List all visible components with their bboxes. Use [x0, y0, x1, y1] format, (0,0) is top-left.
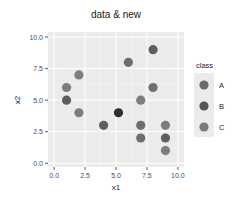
legend-title: class [196, 61, 213, 70]
data-point [114, 108, 123, 117]
data-point [74, 70, 83, 79]
y-tick-label: 2.5 [33, 128, 43, 135]
y-tick-label: 0.0 [33, 160, 43, 167]
chart-title: data & new [91, 9, 142, 20]
legend-key-a [199, 80, 208, 89]
data-point [74, 108, 83, 117]
data-point [124, 58, 133, 67]
y-tick-label: 7.5 [33, 65, 43, 72]
y-axis-label: x2 [13, 95, 22, 104]
data-point [161, 133, 170, 142]
x-tick-label: 7.5 [142, 172, 152, 179]
y-axis: 0.02.55.07.510.0 [29, 34, 48, 167]
legend: class ABC [194, 61, 225, 137]
x-tick-label: 10.0 [171, 172, 185, 179]
legend-key-b [199, 101, 208, 110]
x-axis: 0.02.55.07.510.0 [49, 167, 184, 179]
legend-label-b: B [219, 102, 224, 111]
data-point [136, 133, 145, 142]
x-tick-label: 0.0 [49, 172, 59, 179]
legend-label-a: A [219, 81, 224, 90]
data-point [161, 121, 170, 130]
data-point [136, 121, 145, 130]
data-point [161, 146, 170, 155]
data-point [62, 83, 71, 92]
x-tick-label: 2.5 [80, 172, 90, 179]
legend-label-c: C [219, 123, 225, 132]
y-tick-label: 10.0 [29, 34, 43, 41]
y-tick-label: 5.0 [33, 97, 43, 104]
scatter-chart: data & new 0.02.55.07.510.0 0.02.55.07.5… [0, 0, 239, 204]
data-point [148, 45, 157, 54]
data-point [99, 121, 108, 130]
data-point [62, 96, 71, 105]
legend-key-c [199, 122, 208, 131]
x-axis-label: x1 [112, 183, 121, 192]
x-tick-label: 5.0 [111, 172, 121, 179]
data-point [148, 83, 157, 92]
data-point [136, 96, 145, 105]
